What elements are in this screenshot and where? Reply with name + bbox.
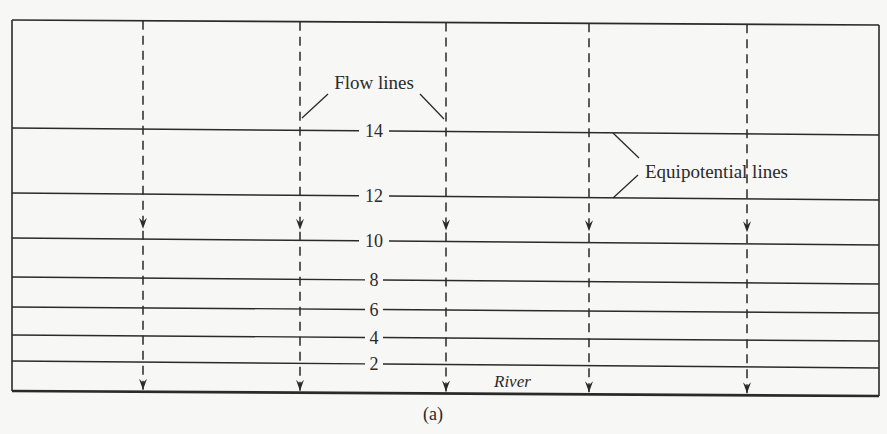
equipotential-value-label: 6: [370, 300, 379, 320]
equipotential-value-label: 4: [370, 328, 379, 348]
flow-line-4: [585, 23, 593, 392]
equipotential-line-14: 14: [12, 121, 879, 141]
equipotential-line-6: 6: [12, 300, 879, 320]
arrow-down-icon: [296, 380, 304, 391]
river-boundary-bottom: [12, 391, 879, 396]
flow-net-diagram: 1412108642 Flow lines Equipotential line…: [0, 0, 887, 434]
equipotential-value-label: 8: [370, 270, 379, 290]
flow-lines-leader-right: [420, 94, 444, 119]
flow-line-5: [743, 24, 751, 393]
flow-lines-label: Flow lines: [334, 72, 414, 93]
flow-net-figure: 1412108642 Flow lines Equipotential line…: [0, 0, 887, 434]
equipotential-value-label: 2: [370, 354, 379, 374]
arrow-down-icon: [743, 382, 751, 393]
figure-caption: (a): [423, 404, 443, 425]
arrow-down-icon: [585, 381, 593, 392]
equipotential-value-label: 12: [365, 186, 383, 206]
equipotential-line-8: 8: [12, 270, 879, 290]
flow-lines-leader-left: [302, 94, 328, 118]
equipotential-lines-label: Equipotential lines: [645, 161, 788, 182]
equipotential-value-label: 14: [365, 121, 383, 141]
equipotential-leader-bottom: [613, 175, 638, 198]
river-label: River: [493, 372, 531, 391]
arrow-down-icon: [139, 379, 147, 390]
flow-line-1: [139, 21, 147, 390]
equipotential-leader-top: [613, 133, 639, 158]
arrow-down-icon: [442, 381, 450, 392]
flow-line-3: [442, 23, 450, 392]
equipotential-value-label: 10: [365, 231, 383, 251]
flow-line-2: [296, 22, 304, 391]
